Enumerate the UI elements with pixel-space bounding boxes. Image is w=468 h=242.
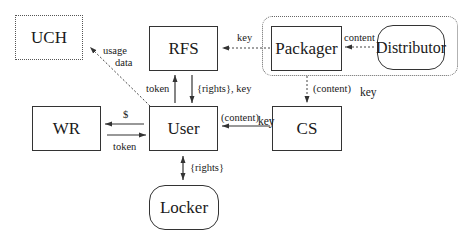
distributor-content-label: content	[344, 33, 375, 44]
cs-user-key-label: key	[258, 116, 275, 128]
uch-node[interactable]: UCH	[15, 15, 83, 60]
distributor-node[interactable]: Distributor	[377, 25, 445, 70]
cs-user-content-label: (content)	[221, 113, 259, 124]
distributor-label: Distributor	[376, 39, 446, 57]
wr-token-label: token	[113, 142, 136, 153]
user-label: User	[167, 119, 199, 139]
locker-rights-label: {rights}	[190, 163, 224, 174]
cs-label: CS	[297, 119, 318, 139]
locker-node[interactable]: Locker	[149, 185, 219, 230]
data-label: data	[115, 58, 133, 69]
uch-label: UCH	[31, 28, 67, 48]
cs-node[interactable]: CS	[272, 106, 342, 151]
user-node[interactable]: User	[149, 106, 218, 151]
rfs-node[interactable]: RFS	[149, 26, 218, 71]
packager-label: Packager	[275, 39, 337, 59]
dollar-label: $	[123, 110, 128, 121]
usage-label: usage	[103, 46, 127, 57]
packager-rfs-key-label: key	[237, 33, 252, 44]
packager-cs-content-label: (content)	[313, 84, 351, 95]
token-to-rfs-label: token	[146, 84, 169, 95]
wr-label: WR	[53, 119, 80, 139]
wr-node[interactable]: WR	[32, 106, 101, 151]
locker-label: Locker	[160, 198, 208, 218]
rights-key-label: {rights}, key	[197, 84, 251, 95]
packager-cs-key-label: key	[360, 87, 377, 99]
rfs-label: RFS	[168, 39, 198, 59]
packager-node[interactable]: Packager	[271, 26, 342, 71]
